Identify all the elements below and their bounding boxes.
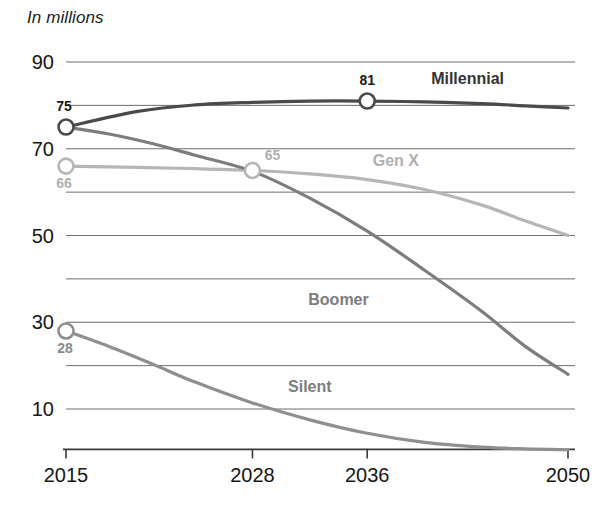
series-label-silent: Silent — [288, 378, 332, 395]
data-point-marker — [59, 323, 74, 338]
x-axis-tick-label: 2015 — [44, 464, 89, 486]
line-chart-svg: 9070503010 2015202820362050 7581666528 M… — [0, 0, 610, 509]
data-point-labels-group: 7581666528 — [56, 72, 375, 356]
y-axis-tick-labels: 9070503010 — [32, 51, 54, 420]
x-axis-tick-label: 2050 — [546, 464, 591, 486]
x-axis-line-and-ticks — [63, 449, 575, 458]
data-point-marker — [59, 159, 74, 174]
y-axis-tick-label: 10 — [32, 398, 54, 420]
gridlines-group — [66, 62, 575, 409]
chart-container: In millions 9070503010 2015202820362050 … — [0, 0, 610, 509]
y-axis-tick-label: 70 — [32, 138, 54, 160]
data-point-marker — [59, 120, 74, 135]
series-label-boomer: Boomer — [308, 291, 368, 308]
y-axis-tick-label: 30 — [32, 311, 54, 333]
y-axis-tick-label: 90 — [32, 51, 54, 73]
y-axis-tick-label: 50 — [32, 225, 54, 247]
data-point-marker — [245, 163, 260, 178]
x-axis-tick-label: 2036 — [345, 464, 390, 486]
data-point-value-label: 66 — [56, 175, 72, 191]
data-point-value-label: 65 — [265, 147, 281, 163]
series-label-gen-x: Gen X — [373, 152, 420, 169]
series-label-millennial: Millennial — [431, 70, 504, 87]
series-lines-group — [66, 101, 568, 450]
data-point-marker — [360, 94, 375, 109]
x-axis-tick-labels: 2015202820362050 — [44, 464, 591, 486]
data-point-value-label: 28 — [57, 340, 73, 356]
x-axis-tick-label: 2028 — [230, 464, 275, 486]
series-line-millennial — [66, 101, 568, 127]
series-name-labels-group: MillennialGen XBoomerSilent — [288, 70, 504, 395]
series-line-boomer — [66, 127, 568, 374]
data-point-value-label: 81 — [359, 72, 375, 88]
data-point-value-label: 75 — [56, 98, 72, 114]
